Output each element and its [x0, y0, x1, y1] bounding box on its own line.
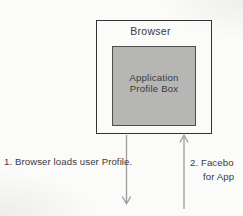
browser-box: Browser Application Profile Box: [96, 20, 212, 134]
step2-annotation-line2: for App: [203, 170, 234, 184]
application-profile-box-label: Application Profile Box: [123, 72, 185, 95]
down-arrow-icon: [122, 135, 130, 204]
diagram-canvas: Browser Application Profile Box 1. Brows…: [0, 0, 243, 216]
step2-annotation: 2. Facebo for App: [190, 156, 234, 183]
step1-annotation: 1. Browser loads user Profile.: [4, 156, 132, 167]
browser-box-label: Browser: [97, 25, 211, 37]
up-arrow-icon: [180, 135, 188, 209]
application-profile-box: Application Profile Box: [112, 46, 196, 126]
step2-annotation-line1: 2. Facebo: [190, 156, 234, 170]
